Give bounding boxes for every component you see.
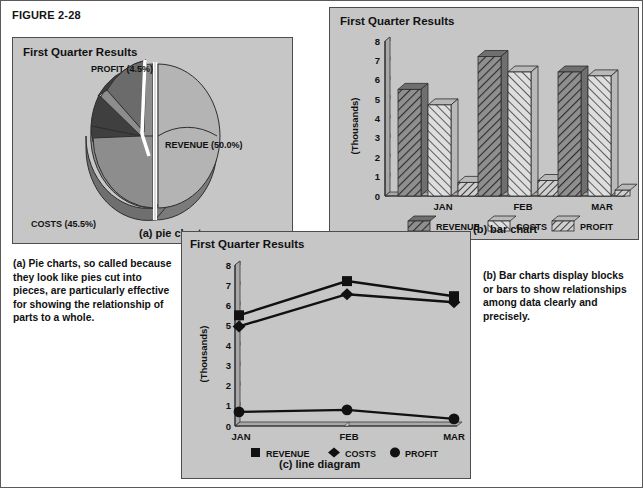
svg-text:5: 5 xyxy=(226,320,232,331)
svg-text:COSTS: COSTS xyxy=(345,449,376,459)
svg-text:6: 6 xyxy=(375,74,380,85)
pie-label-revenue: REVENUE (50.0%) xyxy=(165,140,243,150)
svg-text:2: 2 xyxy=(226,380,231,391)
pie-label-profit: PROFIT (4.5%) xyxy=(91,64,153,74)
svg-text:MAR: MAR xyxy=(591,201,613,212)
svg-text:(Thousands): (Thousands) xyxy=(198,326,209,383)
line-chart-panel: First Quarter Results (Thousands) 0 1 2 … xyxy=(181,231,471,479)
svg-text:4: 4 xyxy=(226,340,232,351)
pie-chart-graphic xyxy=(13,38,294,245)
caption-text-a: (a) Pie charts, so called because they l… xyxy=(13,257,178,325)
svg-text:PROFIT: PROFIT xyxy=(580,222,614,232)
svg-text:JAN: JAN xyxy=(231,431,250,442)
svg-text:7: 7 xyxy=(226,280,231,291)
svg-text:MAR: MAR xyxy=(443,431,465,442)
svg-text:4: 4 xyxy=(375,113,381,124)
svg-text:8: 8 xyxy=(375,36,380,47)
svg-text:(Thousands): (Thousands) xyxy=(349,98,360,155)
svg-text:0: 0 xyxy=(375,191,380,202)
svg-text:JAN: JAN xyxy=(433,201,452,212)
figure-number: FIGURE 2-28 xyxy=(12,9,81,21)
caption-text-b: (b) Bar charts display blocks or bars to… xyxy=(483,269,633,323)
svg-text:2: 2 xyxy=(375,152,380,163)
pie-chart-panel: First Quarter Results xyxy=(12,37,293,244)
figure-page: FIGURE 2-28 First Quarter Results xyxy=(0,0,643,488)
svg-text:REVENUE: REVENUE xyxy=(266,449,310,459)
svg-text:1: 1 xyxy=(375,171,381,182)
svg-text:6: 6 xyxy=(226,300,231,311)
bar-chart-graphic: (Thousands) 0 1 2 3 4 5 6 7 8 xyxy=(330,8,640,241)
svg-text:PROFIT: PROFIT xyxy=(405,449,439,459)
svg-text:8: 8 xyxy=(226,260,231,271)
pie-label-costs: COSTS (45.5%) xyxy=(31,219,96,229)
svg-text:1: 1 xyxy=(226,400,232,411)
line-chart-caption: (c) line diagram xyxy=(279,458,360,470)
svg-text:3: 3 xyxy=(226,360,231,371)
svg-text:5: 5 xyxy=(375,94,381,105)
svg-text:7: 7 xyxy=(375,55,380,66)
svg-text:FEB: FEB xyxy=(514,201,533,212)
bar-chart-panel: First Quarter Results (Thousands) xyxy=(329,7,639,240)
bar-chart-caption: (b) bar chart xyxy=(473,223,537,235)
line-chart-graphic: (Thousands) 0 1 2 3 4 5 6 7 8 xyxy=(182,232,472,480)
svg-text:3: 3 xyxy=(375,132,380,143)
svg-text:FEB: FEB xyxy=(340,431,359,442)
svg-text:0: 0 xyxy=(226,421,231,432)
